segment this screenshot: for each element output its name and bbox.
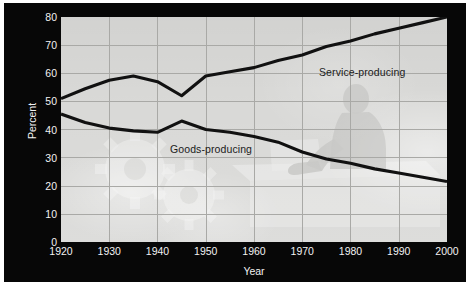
x-axis-tick: 1980 <box>329 246 373 257</box>
x-axis-tick-labels: 192019301940195019601970198019902000 <box>61 246 447 260</box>
y-axis-tick: 20 <box>9 181 57 191</box>
x-axis-tick: 1960 <box>232 246 276 257</box>
series-lines <box>61 17 447 242</box>
y-axis-tick: 80 <box>9 12 57 22</box>
x-axis-tick: 2000 <box>425 246 469 257</box>
y-axis-title: Percent <box>26 86 38 156</box>
series-line-goods <box>61 114 447 182</box>
x-axis-tick: 1970 <box>280 246 324 257</box>
x-axis-tick: 1930 <box>87 246 131 257</box>
plot-inner: Service-producing Goods-producing <box>61 17 447 242</box>
x-axis-tick: 1940 <box>136 246 180 257</box>
y-axis-tick: 60 <box>9 68 57 78</box>
chart-figure: 01020304050607080 Percent <box>0 0 470 286</box>
series-label-service: Service-producing <box>319 66 405 78</box>
y-axis-tick: 10 <box>9 209 57 219</box>
series-line-service <box>61 17 447 99</box>
x-axis-tick: 1950 <box>184 246 228 257</box>
chart-panel: 01020304050607080 Percent <box>4 3 466 282</box>
plot-area: Service-producing Goods-producing <box>61 17 447 242</box>
y-axis-tick: 70 <box>9 40 57 50</box>
x-axis-title: Year <box>61 265 447 277</box>
x-axis-tick: 1990 <box>377 246 421 257</box>
x-axis-tick: 1920 <box>39 246 83 257</box>
series-label-goods: Goods-producing <box>170 143 252 155</box>
